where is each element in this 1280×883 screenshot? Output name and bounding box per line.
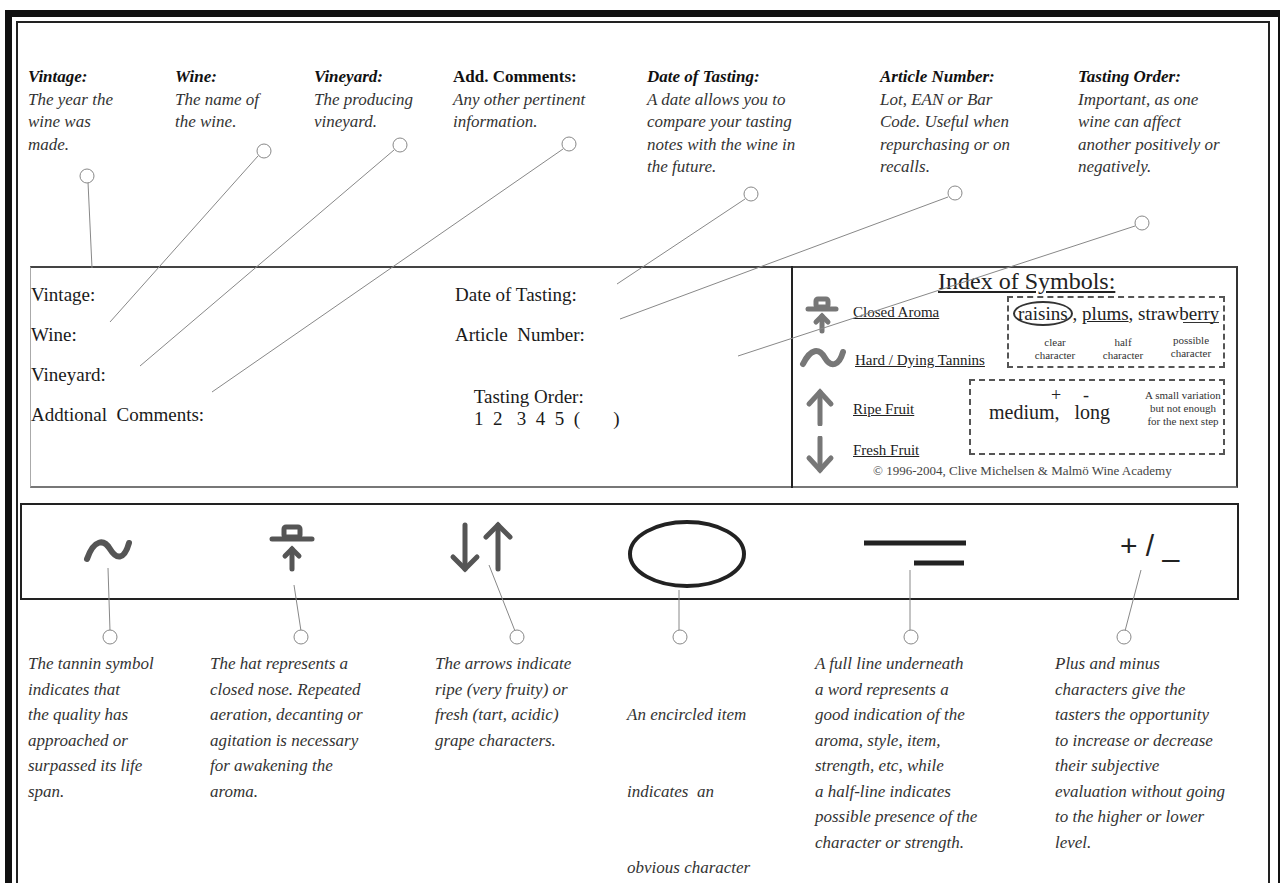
- note-line: for the next step: [1141, 415, 1225, 428]
- tannin-icon: [82, 535, 134, 567]
- desc-line: made.: [28, 134, 148, 157]
- desc-line: Lot, EAN or Bar: [880, 89, 1060, 112]
- desc-heading: Date of Tasting:: [647, 66, 847, 89]
- desc-line: The arrows indicate: [435, 651, 615, 677]
- index-item-fresh-fruit: Fresh Fruit: [853, 442, 919, 459]
- caption-possible: possiblecharacter: [1161, 334, 1221, 360]
- variation-note: A small variation but not enough for the…: [1141, 389, 1225, 428]
- desc-line: A full line underneath: [815, 651, 1035, 677]
- desc-line: indicates that: [28, 677, 198, 703]
- desc-line: characters give the: [1055, 677, 1270, 703]
- desc-line: negatively.: [1078, 156, 1268, 179]
- desc-line: for awakening the: [210, 753, 410, 779]
- field-article-number[interactable]: Article Number:: [455, 324, 585, 346]
- index-item-closed-aroma: Closed Aroma: [853, 304, 939, 321]
- caption-line: character: [1027, 349, 1083, 362]
- desc-line: to increase or decrease: [1055, 728, 1270, 754]
- arrow-up-icon: [480, 519, 516, 573]
- desc-line: approached or: [28, 728, 198, 754]
- arrow-down-icon: [805, 436, 835, 476]
- desc-article-number: Article Number: Lot, EAN or Bar Code. Us…: [880, 66, 1060, 179]
- index-of-symbols: Index of Symbols: Closed Aroma Hard / Dy…: [791, 266, 1238, 488]
- tasting-order-options[interactable]: 1 2 3 4 5 ( ): [474, 408, 620, 429]
- symbols-bar: + / _: [20, 503, 1239, 600]
- desc-line: the quality has: [28, 702, 198, 728]
- desc-line: Code. Useful when: [880, 111, 1060, 134]
- desc-line: recalls.: [880, 156, 1060, 179]
- desc-hat-symbol: The hat represents a closed nose. Repeat…: [210, 651, 410, 804]
- desc-arrows-symbol: The arrows indicate ripe (very fruity) o…: [435, 651, 615, 753]
- desc-heading: Article Number:: [880, 66, 1060, 89]
- index-item-ripe-fruit: Ripe Fruit: [853, 401, 914, 418]
- desc-line: fresh (tart, acidic): [435, 702, 615, 728]
- half-underlined-word: strawberry: [1138, 303, 1219, 324]
- field-vintage[interactable]: Vintage:: [31, 284, 95, 306]
- desc-line: possible presence of the: [815, 804, 1035, 830]
- arrow-up-icon: [805, 388, 835, 426]
- desc-tasting-order: Tasting Order: Important, as one wine ca…: [1078, 66, 1268, 179]
- desc-add-comments: Add. Comments: Any other pertinent infor…: [453, 66, 633, 134]
- caption-line: clear: [1027, 336, 1083, 349]
- desc-line: compare your tasting: [647, 111, 847, 134]
- field-additional-comments[interactable]: Addtional Comments:: [31, 404, 204, 426]
- desc-line: The producing: [314, 89, 444, 112]
- desc-line: aroma.: [210, 779, 410, 805]
- desc-line: The year the: [28, 89, 148, 112]
- caption-line: character: [1161, 347, 1221, 360]
- desc-line: obvious character: [627, 855, 797, 881]
- index-item-tannins: Hard / Dying Tannins: [855, 352, 985, 369]
- desc-line: vineyard.: [314, 111, 444, 134]
- field-date-of-tasting[interactable]: Date of Tasting:: [455, 284, 577, 306]
- word: strawberry: [1138, 303, 1219, 324]
- desc-line: agitation is necessary: [210, 728, 410, 754]
- caption-clear: clearcharacter: [1027, 336, 1083, 362]
- half-underline: [1183, 322, 1220, 323]
- note-line: but not enough: [1141, 402, 1225, 415]
- caption-line: character: [1095, 349, 1151, 362]
- desc-line: their subjective: [1055, 753, 1270, 779]
- desc-line: aeration, decanting or: [210, 702, 410, 728]
- desc-line: indicates an: [627, 779, 797, 805]
- desc-heading: Wine:: [175, 66, 295, 89]
- desc-line: strength, etc, while: [815, 753, 1035, 779]
- ellipse-icon: [626, 519, 748, 591]
- desc-line: The tannin symbol: [28, 651, 198, 677]
- caption-half: halfcharacter: [1095, 336, 1151, 362]
- comma: ,: [1073, 303, 1078, 324]
- desc-line: notes with the wine in: [647, 134, 847, 157]
- desc-line: a half-line indicates: [815, 779, 1035, 805]
- field-wine[interactable]: Wine:: [31, 324, 77, 346]
- desc-line: wine can affect: [1078, 111, 1268, 134]
- desc-line: character or strength.: [815, 830, 1035, 856]
- caption-line: possible: [1161, 334, 1221, 347]
- desc-line: The hat represents a: [210, 651, 410, 677]
- desc-date-of-tasting: Date of Tasting: A date allows you to co…: [647, 66, 847, 179]
- variation-words: medium, long: [989, 401, 1110, 424]
- desc-line: ripe (very fruity) or: [435, 677, 615, 703]
- underline-lines-icon: [862, 535, 972, 571]
- plus-minus-icon: + / _: [1120, 529, 1179, 563]
- desc-line: Any other pertinent: [453, 89, 633, 112]
- comma: ,: [1129, 303, 1134, 324]
- tasting-order-label: Tasting Order:: [474, 386, 584, 407]
- encircled-word: raisins: [1013, 301, 1073, 326]
- index-title: Index of Symbols:: [938, 268, 1115, 295]
- field-tasting-order[interactable]: Tasting Order: 1 2 3 4 5 ( ): [455, 364, 620, 452]
- desc-vineyard: Vineyard: The producing vineyard.: [314, 66, 444, 134]
- desc-line: A date allows you to: [647, 89, 847, 112]
- caption-line: half: [1095, 336, 1151, 349]
- arrow-down-icon: [447, 521, 483, 575]
- desc-line: aroma, style, item,: [815, 728, 1035, 754]
- desc-line: another positively or: [1078, 134, 1268, 157]
- desc-line: level.: [1055, 830, 1270, 856]
- desc-line: to the higher or lower: [1055, 804, 1270, 830]
- desc-underline-symbol: A full line underneath a word represents…: [815, 651, 1035, 855]
- desc-heading: Add. Comments:: [453, 66, 633, 89]
- desc-heading: Vintage:: [28, 66, 148, 89]
- desc-tannin-symbol: The tannin symbol indicates that the qua…: [28, 651, 198, 804]
- note-line: A small variation: [1141, 389, 1225, 402]
- copyright: © 1996-2004, Clive Michelsen & Malmö Win…: [873, 463, 1172, 479]
- desc-wine: Wine: The name of the wine.: [175, 66, 295, 134]
- desc-line: span.: [28, 779, 198, 805]
- field-vineyard[interactable]: Vineyard:: [31, 364, 106, 386]
